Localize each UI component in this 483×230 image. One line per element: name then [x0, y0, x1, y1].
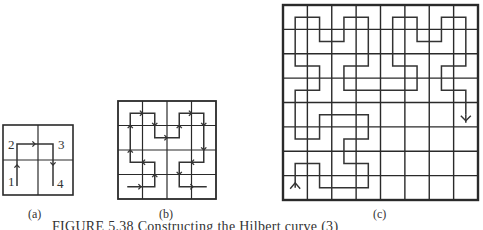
vertex-label-3: 3 [58, 137, 65, 153]
panel-c-order-3-hilbert [283, 5, 478, 200]
panel-c-label: (c) [373, 207, 386, 222]
panel-b-order-2-hilbert [118, 101, 216, 199]
hilbert-curve-path [17, 144, 53, 186]
vertex-label-2: 2 [8, 137, 15, 153]
hilbert-figure [0, 0, 483, 230]
figure-caption: FIGURE 5.38 Constructing the Hilbert cur… [52, 219, 338, 230]
panel-a-label: (a) [28, 207, 41, 222]
vertex-label-1: 1 [8, 174, 15, 190]
vertex-label-4: 4 [57, 176, 64, 192]
